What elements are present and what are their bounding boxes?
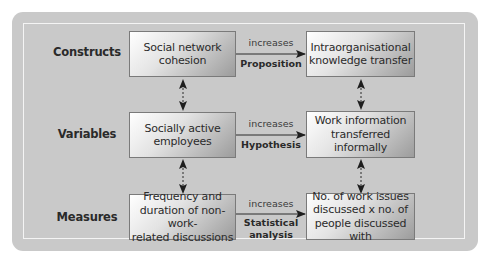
variable-left-box: Socially active employees [129,112,236,158]
measure-right-box: No. of work issues discussed x no. of pe… [306,193,415,240]
construct-left-box: Social network cohesion [129,31,236,77]
relation-type-hypothesis: Hypothesis [237,139,305,151]
box-text: Work information transferred informally [307,114,414,155]
dashed-double-arrow-icon [357,79,365,110]
box-text: Frequency and duration of non-work- rela… [130,190,235,244]
measure-left-box: Frequency and duration of non-work- rela… [129,194,236,240]
relation-label: increases [240,118,302,129]
box-text: Social network cohesion [144,41,222,68]
row-label-variables: Variables [42,127,132,141]
variable-right-box: Work information transferred informally [306,111,415,158]
row-label-measures: Measures [42,210,132,224]
relation-type-proposition: Proposition [237,58,305,70]
relation-type-statistical-analysis: Statistical analysis [237,217,305,241]
box-text: Intraorganisational knowledge transfer [309,41,412,68]
box-text: Socially active employees [144,122,220,149]
row-label-constructs: Constructs [42,45,132,59]
relation-label: increases [240,37,302,48]
box-text: No. of work issues discussed x no. of pe… [307,190,414,244]
dashed-double-arrow-icon [179,79,187,111]
construct-right-box: Intraorganisational knowledge transfer [306,31,415,77]
dashed-double-arrow-icon [179,159,187,194]
relation-label: increases [240,198,302,209]
